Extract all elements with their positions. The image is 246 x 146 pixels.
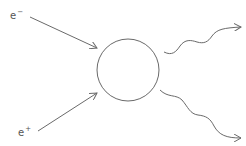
interaction-vertex-circle (97, 39, 159, 101)
photon-wavy-arrow-upper (164, 27, 241, 54)
electron-arrow (30, 17, 97, 48)
electron-symbol: e (10, 10, 16, 21)
photon-wavy-arrow-lower (160, 90, 241, 138)
positron-arrow (38, 93, 97, 131)
positron-label: e+ (18, 127, 31, 138)
positron-symbol: e (18, 127, 24, 138)
electron-charge: − (17, 8, 23, 16)
feynman-diagram: e− e+ (0, 0, 246, 146)
electron-label: e− (10, 10, 23, 21)
positron-charge: + (25, 125, 31, 133)
diagram-graphic (0, 0, 246, 146)
